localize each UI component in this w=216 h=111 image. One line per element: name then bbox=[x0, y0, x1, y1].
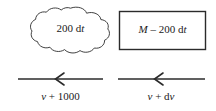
cloud-label-variable: t bbox=[81, 22, 84, 34]
rectangle-label-number: 200 d bbox=[159, 23, 184, 35]
flow-label-right: v + dv bbox=[117, 91, 205, 102]
cloud-label: 200 dt bbox=[33, 23, 108, 34]
diagram-canvas: 200 dt M – 200 dt v + 1000 v + dv bbox=[0, 0, 216, 111]
flow-label-left-operator: + bbox=[46, 90, 58, 102]
cloud-label-number: 200 d bbox=[57, 22, 82, 34]
rectangle-label-variable: t bbox=[183, 23, 186, 35]
rectangle-label-mass-variable: M bbox=[139, 23, 148, 35]
rectangle-label: M – 200 dt bbox=[119, 24, 206, 35]
flow-label-right-variable-trail: v bbox=[170, 90, 175, 102]
flow-label-left-value: 1000 bbox=[58, 90, 80, 102]
rectangle-label-operator: – bbox=[148, 23, 159, 35]
flow-label-left: v + 1000 bbox=[18, 91, 103, 102]
flow-label-right-operator: + bbox=[152, 90, 164, 102]
